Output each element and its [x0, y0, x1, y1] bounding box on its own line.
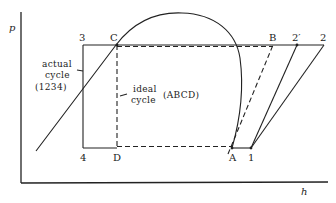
point-1-marker	[250, 147, 253, 150]
label-point-A: A	[228, 152, 237, 163]
point-2prime-marker	[296, 44, 299, 47]
ideal-cycle-label-suffix: (ABCD)	[163, 90, 199, 100]
axes: p h	[9, 12, 328, 197]
compression-dashed-A-B	[228, 45, 273, 154]
point-C-marker	[116, 44, 119, 47]
point-A-marker	[231, 147, 234, 150]
ideal-cycle-leader	[120, 94, 127, 96]
ideal-cycle-annotation: ideal cycle (ABCD)	[120, 84, 199, 105]
label-point-C: C	[110, 32, 118, 43]
saturation-dome-curve	[36, 13, 242, 151]
actual-cycle-label-line3: (1234)	[35, 82, 67, 92]
x-axis-label: h	[301, 186, 307, 197]
ideal-cycle-label-line1: ideal	[133, 84, 157, 94]
x-axis	[21, 182, 328, 183]
y-axis-label: p	[9, 22, 16, 33]
label-point-2: 2	[320, 32, 326, 43]
label-point-2prime: 2′	[292, 32, 301, 43]
point-labels: 3 C B 2′ 2 4 D A 1	[79, 32, 326, 163]
actual-cycle-leader	[77, 70, 83, 71]
actual-cycle-label-line1: actual	[42, 59, 72, 69]
actual-cycle-annotation: actual cycle (1234)	[35, 59, 83, 92]
compression-line-1-2prime	[251, 45, 297, 148]
actual-cycle-label-line2: cycle	[45, 70, 70, 80]
actual-cycle	[83, 45, 324, 148]
label-point-B: B	[269, 32, 276, 43]
label-point-3: 3	[79, 32, 85, 43]
label-point-D: D	[113, 152, 121, 163]
ph-diagram: p h 3 C B 2′ 2 4 D A 1 actual	[0, 0, 336, 203]
label-point-4: 4	[80, 152, 86, 163]
label-point-1: 1	[248, 152, 254, 163]
compression-line-1-2	[251, 45, 324, 148]
ideal-cycle-label-line2: cycle	[131, 95, 156, 105]
